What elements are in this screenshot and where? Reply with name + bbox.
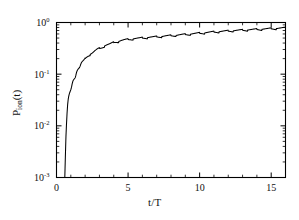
major-tick-marks <box>57 23 286 178</box>
y-axis-title-base: P <box>10 110 22 116</box>
x-tick-label-group: 051015 <box>54 182 276 193</box>
x-tick-label: 15 <box>266 182 276 193</box>
x-tick-label: 5 <box>126 182 131 193</box>
data-curve-p-ion <box>65 27 286 177</box>
y-tick-label: 10-2 <box>34 119 49 131</box>
axis-frame <box>57 23 286 178</box>
semilog-plot: 051015 10010-110-210-3 <box>0 0 299 220</box>
y-axis-title-wrap: Pion(t) <box>8 68 26 138</box>
minor-tick-marks <box>57 23 286 178</box>
y-axis-title-subscript: ion <box>15 100 24 110</box>
figure-container: 051015 10010-110-210-3 Pion(t) t/T <box>0 0 299 220</box>
x-tick-label: 10 <box>195 182 205 193</box>
x-tick-label: 0 <box>54 182 59 193</box>
y-tick-label: 100 <box>36 16 49 28</box>
y-axis-title: Pion(t) <box>10 90 24 116</box>
y-tick-label: 10-3 <box>34 171 49 183</box>
y-tick-label-group: 10010-110-210-3 <box>34 16 49 183</box>
y-tick-label: 10-1 <box>34 68 49 80</box>
x-axis-title: t/T <box>148 196 161 208</box>
y-axis-title-tail: (t) <box>10 90 22 100</box>
